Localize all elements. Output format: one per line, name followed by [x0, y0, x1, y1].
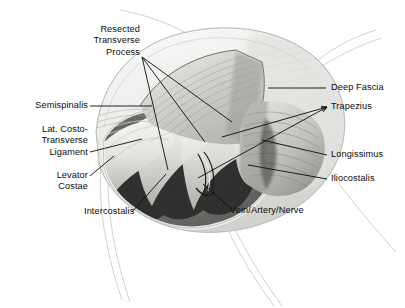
label-trapezius: Trapezius	[331, 101, 405, 112]
label-intercostalis: Intercostalis	[84, 206, 174, 217]
label-vein-artery-nerve: Vein/Artery/Nerve	[230, 205, 350, 216]
label-longissimus: Longissimus	[331, 149, 405, 160]
label-semispinalis: Semispinalis	[8, 100, 88, 111]
label-deep-fascia: Deep Fascia	[331, 82, 405, 93]
label-iliocostalis: Iliocostalis	[331, 173, 405, 184]
illustration-page: Resected Transverse Process Semispinalis…	[0, 0, 405, 308]
label-levator-costae: Levator Costae	[22, 170, 88, 193]
label-resected-transverse-process: Resected Transverse Process	[30, 24, 140, 58]
label-lat-costo-transverse-ligament: Lat. Costo- Transverse Ligament	[8, 124, 88, 158]
